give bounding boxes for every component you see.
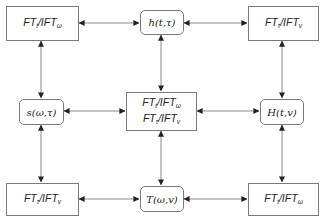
node-top-center: h(t,τ) [140, 10, 184, 35]
node-top-center-label: h(t,τ) [149, 17, 176, 28]
node-bottom-center: T(ω,v) [140, 186, 184, 212]
node-top-right: FTτ/IFTv [248, 6, 319, 41]
node-bottom-left-label: FTτ/IFTv [24, 192, 61, 208]
node-mid-left: s(ω,τ) [19, 99, 64, 125]
node-bottom-center-label: T(ω,v) [146, 194, 177, 205]
node-mid-right: H(t,v) [260, 99, 304, 125]
node-center-label-line2: FTτ/IFTv [143, 112, 180, 128]
node-center: FTt/IFTω FTτ/IFTv [126, 92, 197, 131]
node-top-right-label: FTτ/IFTv [265, 16, 302, 32]
node-bottom-left: FTτ/IFTv [6, 183, 79, 216]
node-bottom-right: FTt/IFTω [248, 183, 319, 216]
node-center-label-line1: FTt/IFTω [142, 96, 180, 112]
node-bottom-right-label: FTt/IFTω [264, 192, 302, 208]
node-mid-left-label: s(ω,τ) [27, 107, 57, 118]
node-top-left: FTt/IFTω [6, 6, 79, 41]
node-top-left-label: FTt/IFTω [23, 16, 61, 32]
node-mid-right-label: H(t,v) [267, 107, 296, 118]
